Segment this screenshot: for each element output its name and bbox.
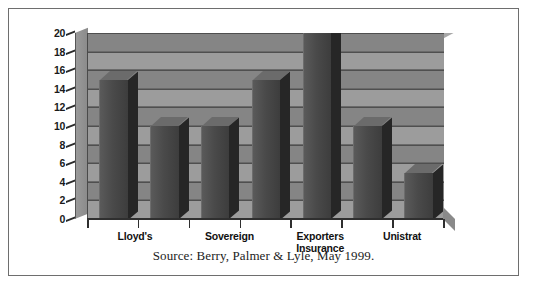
x-axis-ticks (87, 219, 455, 229)
y-axis-tick-mark (66, 179, 75, 184)
x-axis-tick-mark (443, 219, 445, 228)
bar (99, 80, 127, 220)
x-axis-category-label: Lloyd's (90, 230, 180, 242)
y-axis-tick-mark (66, 49, 75, 54)
x-axis-category-label: Unistrat (357, 230, 447, 242)
y-axis-tick-mark (66, 216, 75, 221)
grid-band (88, 52, 444, 71)
y-axis-tick-mark (66, 161, 75, 166)
y-axis-tick-mark (66, 123, 75, 128)
bar-side-face (433, 164, 443, 219)
bar (353, 126, 381, 219)
bar (252, 80, 280, 220)
y-axis-tick-label: 2 (59, 194, 65, 206)
grid-band (88, 33, 444, 52)
y-axis-tick-label: 6 (59, 157, 65, 169)
bar (303, 33, 331, 219)
y-axis-tick-label: 12 (54, 101, 65, 113)
y-axis-tick-mark (66, 142, 75, 147)
y-axis: 02468101214161820 (35, 33, 75, 219)
y-axis-tick-label: 18 (54, 46, 65, 58)
bar-side-face (128, 71, 138, 219)
y-axis-tick-label: 10 (54, 120, 65, 132)
x-axis-tick-mark (240, 219, 242, 228)
y-axis-tick-mark (66, 68, 75, 73)
chart-plot-wrapper: 02468101214161820 Lloyd'sSovereignExport… (9, 9, 518, 275)
y-axis-tick-label: 20 (54, 27, 65, 39)
y-axis-tick-label: 14 (54, 83, 65, 95)
y-axis-tick-mark (66, 198, 75, 203)
x-axis-tick-mark (392, 219, 394, 228)
y-axis-tick-mark (66, 86, 75, 91)
bar-side-face (331, 33, 341, 219)
y-axis-tick-label: 16 (54, 64, 65, 76)
bar-side-face (280, 71, 290, 219)
x-axis-tick-mark (87, 219, 89, 228)
bar-side-face (229, 118, 239, 219)
figure-frame: 02468101214161820 Lloyd'sSovereignExport… (8, 8, 519, 276)
source-note: Source: Berry, Palmer & Lyle, May 1999. (9, 248, 518, 264)
y-axis-tick-mark (66, 30, 75, 35)
plot-area (87, 33, 444, 220)
bar-side-face (382, 118, 392, 219)
y-axis-tick-label: 4 (59, 176, 65, 188)
bar (404, 173, 432, 220)
x-axis-tick-mark (138, 219, 140, 228)
bar (201, 126, 229, 219)
x-axis-tick-mark (341, 219, 343, 228)
bar (150, 126, 178, 219)
y-axis-tick-label: 8 (59, 139, 65, 151)
y-axis-tick-mark (66, 105, 75, 110)
x-axis-tick-mark (290, 219, 292, 228)
y-axis-tick-label: 0 (59, 213, 65, 225)
x-axis-tick-mark (189, 219, 191, 228)
bar-side-face (179, 118, 189, 219)
x-axis-category-label: Sovereign (184, 230, 274, 242)
